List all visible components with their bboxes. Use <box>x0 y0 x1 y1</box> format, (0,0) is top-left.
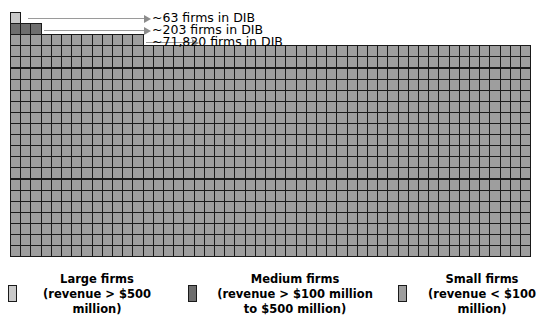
legend-detail1-large-firms: (revenue > $500 <box>43 287 151 301</box>
callout-line-medium <box>44 30 144 31</box>
callout-label-small: ~71,820 firms in DIB <box>152 35 283 48</box>
legend-detail2-large-firms: million) <box>72 302 121 316</box>
legend-title-large-firms: Large firms <box>60 272 134 286</box>
legend-detail2-medium-firms: to $500 million) <box>244 302 347 316</box>
callout-arrow-large <box>144 15 151 23</box>
pictogram-chart: ~63 firms in DIB~203 firms in DIB~71,820… <box>0 0 546 325</box>
pictogram-cell-small <box>520 245 531 257</box>
legend-label-small-firms: Small firms (revenue < $100 million) <box>412 272 546 317</box>
legend-title-small-firms: Small firms <box>446 272 519 286</box>
callout-line-large <box>28 18 144 19</box>
legend-label-medium-firms: Medium firms (revenue > $100 million to … <box>202 272 388 317</box>
legend-detail1-small-firms: (revenue < $100 <box>428 287 536 301</box>
legend-detail1-medium-firms: (revenue > $100 million <box>217 287 373 301</box>
callout-arrow-medium <box>144 27 151 35</box>
legend-swatch-medium-firms <box>188 285 197 302</box>
legend-title-medium-firms: Medium firms <box>251 272 340 286</box>
legend-swatch-small-firms <box>398 285 407 302</box>
legend-label-large-firms: Large firms (revenue > $500 million) <box>22 272 172 317</box>
legend-swatch-large-firms <box>8 285 17 302</box>
legend-detail2-small-firms: million) <box>457 302 506 316</box>
